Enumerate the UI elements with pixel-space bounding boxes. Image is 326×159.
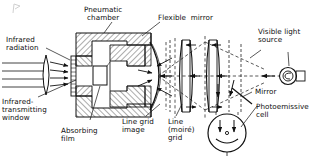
photocell-arrows bbox=[218, 80, 234, 97]
label-infrared-transmitting-window: Infrared- transmitting window bbox=[2, 98, 47, 123]
flexible-mirror bbox=[150, 42, 161, 110]
label-mirror: Mirror bbox=[255, 88, 276, 96]
label-photoemissive-cell: Photoemissive cell bbox=[256, 103, 309, 119]
pneumatic-infrared-detector-diagram bbox=[0, 0, 326, 159]
label-visible-light-source: Visible light source bbox=[258, 28, 300, 44]
label-absorbing-film: Absorbing film bbox=[61, 127, 98, 143]
label-infrared-radiation: Infrared radiation bbox=[6, 36, 39, 52]
ir-lens bbox=[43, 55, 49, 95]
pneumatic-chamber-body bbox=[76, 33, 151, 117]
infrared-converging-rays bbox=[50, 62, 68, 86]
label-flexible-mirror: Flexible mirror bbox=[158, 14, 213, 22]
photoemissive-cell bbox=[208, 114, 246, 156]
absorbing-film bbox=[93, 62, 110, 85]
label-line-grid-image: Line grid image bbox=[122, 118, 154, 134]
infrared-transmitting-window bbox=[71, 56, 76, 96]
infrared-ray-bundle bbox=[2, 63, 44, 87]
flat-mirror bbox=[232, 88, 252, 104]
label-pneumatic-chamber: Pneumatic chamber bbox=[84, 6, 122, 22]
visible-light-source-lamp bbox=[280, 68, 306, 85]
scan-artifact-mark bbox=[13, 4, 20, 13]
label-line-moire-grid: Line (moiré) grid bbox=[168, 118, 195, 143]
